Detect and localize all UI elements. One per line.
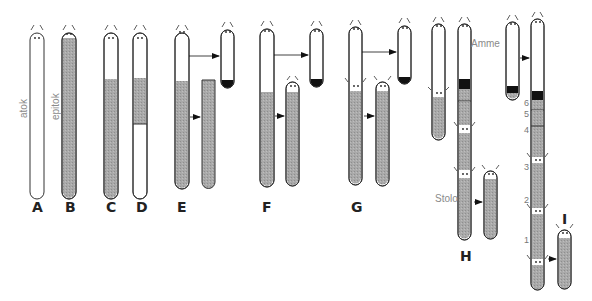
worm-g-parent: [345, 20, 366, 185]
worm-h-stolon: [482, 165, 499, 239]
worm-b: [62, 25, 76, 199]
panel-label-g: G: [351, 200, 363, 214]
label-epitok: epitok: [51, 93, 61, 120]
segment-number-6: 6: [524, 99, 529, 108]
label-stolo: Stolo: [435, 194, 458, 204]
worm-i-amme: [506, 15, 519, 100]
worm-i-chain: [527, 12, 548, 290]
worm-e-parent: [175, 25, 189, 189]
segment-number-3: 3: [524, 163, 529, 172]
worm-d: [133, 25, 147, 199]
worm-g-stolon: [374, 76, 391, 186]
panel-label-h: H: [460, 249, 472, 263]
segment-number-5: 5: [524, 110, 529, 119]
worm-e-stolon: [202, 80, 215, 189]
label-amme: Amme: [471, 39, 500, 49]
reproduction-modes-diagram: [0, 0, 592, 301]
panel-label-f: F: [262, 200, 272, 214]
worm-i-stolon: [556, 224, 573, 289]
worm-f-stolon: [286, 76, 299, 186]
worm-a: [30, 25, 44, 199]
worm-f-head-bud: [310, 21, 323, 87]
segment-number-1: 1: [524, 236, 529, 245]
panel-label-d: D: [136, 200, 148, 214]
worm-e-head-bud: [221, 22, 234, 88]
worm-h-amme-chain: [454, 17, 475, 240]
segment-number-2: 2: [524, 196, 529, 205]
worm-c: [104, 25, 118, 199]
panel-label-c: C: [106, 200, 116, 214]
worm-f-parent: [260, 21, 274, 187]
label-atok: atok: [19, 99, 29, 118]
segment-number-4: 4: [524, 126, 529, 135]
panel-label-a: A: [32, 200, 43, 214]
panel-label-b: B: [65, 200, 76, 214]
worm-g-head-bud: [398, 18, 411, 84]
panel-label-e: E: [177, 200, 187, 214]
worm-h-left: [428, 17, 449, 140]
panel-label-i: I: [562, 212, 567, 226]
